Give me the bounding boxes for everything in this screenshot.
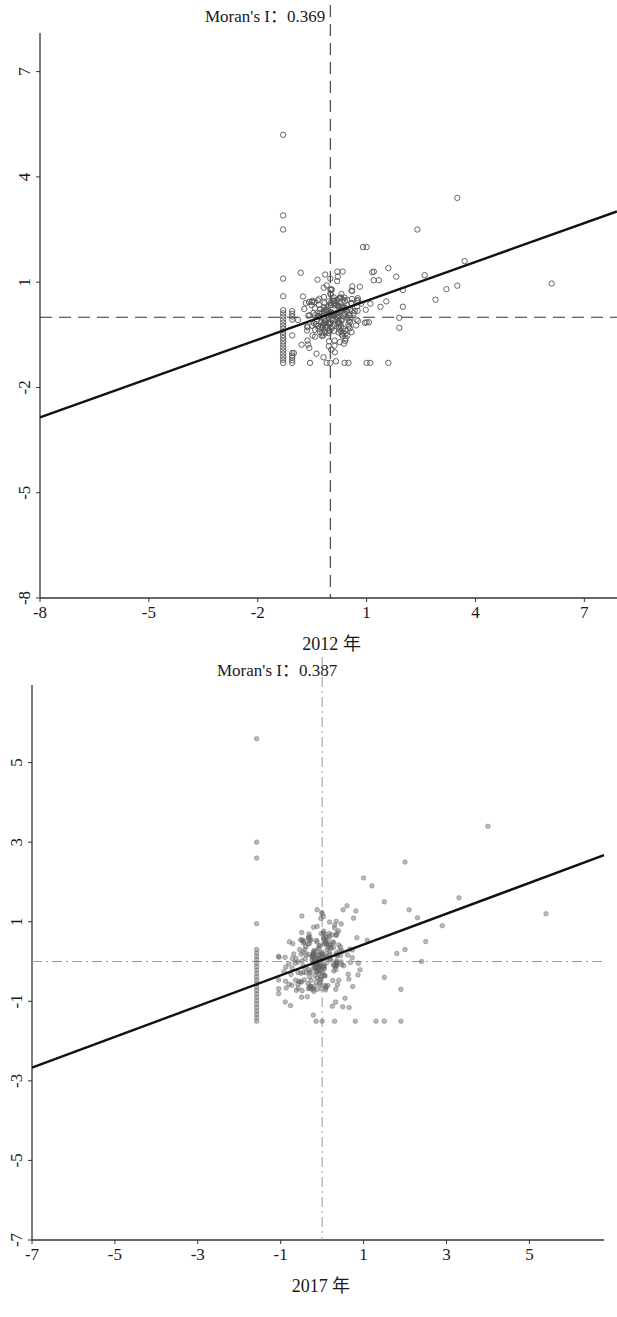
x-tick-label: -3 <box>191 1245 205 1264</box>
data-point <box>457 896 462 901</box>
y-tick-label: 1 <box>15 278 34 287</box>
y-tick-label: -3 <box>7 1074 26 1088</box>
data-point <box>348 960 353 965</box>
y-tick-label: 7 <box>15 67 34 76</box>
data-point <box>319 974 324 979</box>
data-point <box>399 987 404 992</box>
y-tick-label: 4 <box>15 172 34 181</box>
data-point <box>347 977 352 982</box>
data-point <box>334 919 339 924</box>
data-point <box>314 351 319 356</box>
data-point <box>415 915 420 920</box>
data-point <box>316 946 321 951</box>
data-point <box>397 325 402 330</box>
data-point <box>299 930 304 935</box>
data-point <box>462 258 467 263</box>
data-point <box>422 272 427 277</box>
data-point <box>354 317 359 322</box>
data-point <box>302 940 307 945</box>
x-tick-label: 7 <box>580 603 589 622</box>
data-points <box>254 736 548 1023</box>
data-point <box>321 294 326 299</box>
data-point <box>346 972 351 977</box>
data-point <box>363 307 368 312</box>
data-point <box>280 132 285 137</box>
x-tick-label: 1 <box>362 603 371 622</box>
data-point <box>314 938 319 943</box>
data-point <box>382 900 387 905</box>
y-tick-label: -5 <box>15 486 34 500</box>
data-point <box>355 935 360 940</box>
regression-line <box>40 211 617 417</box>
data-point <box>382 1019 387 1024</box>
data-point <box>335 982 340 987</box>
data-point <box>333 987 338 992</box>
data-point <box>394 951 399 956</box>
data-point <box>314 1019 319 1024</box>
data-point <box>407 907 412 912</box>
data-point <box>347 1005 352 1010</box>
data-point <box>303 957 308 962</box>
data-point <box>364 244 369 249</box>
data-point <box>337 943 342 948</box>
data-point <box>309 985 314 990</box>
data-point <box>314 987 319 992</box>
data-point <box>307 360 312 365</box>
data-point <box>315 924 320 929</box>
data-point <box>330 1004 335 1009</box>
x-tick-label: -1 <box>274 1245 288 1264</box>
data-point <box>300 914 305 919</box>
x-tick-label: 4 <box>471 603 480 622</box>
data-point <box>374 1019 379 1024</box>
data-point <box>330 978 335 983</box>
y-tick-label: 1 <box>7 917 26 926</box>
data-point <box>307 932 312 937</box>
data-point <box>386 265 391 270</box>
data-point <box>290 333 295 338</box>
data-point <box>319 986 324 991</box>
x-tick-label: 3 <box>442 1245 451 1264</box>
data-point <box>350 984 355 989</box>
data-point <box>276 954 281 959</box>
data-point <box>287 961 292 966</box>
data-point <box>323 983 328 988</box>
x-tick-label: -2 <box>251 603 265 622</box>
data-point <box>332 338 337 343</box>
data-point <box>354 909 359 914</box>
x-tick-label: -5 <box>142 603 156 622</box>
data-point <box>399 1019 404 1024</box>
data-point <box>334 933 339 938</box>
x-axis-label: 2017 年 <box>292 1276 351 1296</box>
y-tick-label: -7 <box>7 1232 26 1247</box>
data-point <box>350 955 355 960</box>
data-point <box>332 1019 337 1024</box>
data-point <box>384 299 389 304</box>
data-point <box>291 952 296 957</box>
y-tick-label: 5 <box>7 758 26 767</box>
data-point <box>294 956 299 961</box>
data-point <box>299 342 304 347</box>
data-point <box>302 978 307 983</box>
data-point <box>254 921 259 926</box>
data-point <box>423 939 428 944</box>
data-point <box>254 856 259 861</box>
x-tick-label: -5 <box>108 1245 122 1264</box>
data-point <box>301 970 306 975</box>
data-point <box>351 916 356 921</box>
y-tick-label: 3 <box>7 838 26 847</box>
data-point <box>276 978 281 983</box>
data-point <box>440 923 445 928</box>
data-point <box>320 1019 325 1024</box>
data-point <box>306 952 311 957</box>
data-point <box>317 981 322 986</box>
data-point <box>370 884 375 889</box>
x-axis-label: 2012 年 <box>302 634 361 654</box>
data-point <box>353 1019 358 1024</box>
data-point <box>303 300 308 305</box>
data-point <box>276 991 281 996</box>
data-point <box>307 345 312 350</box>
data-point <box>293 961 298 966</box>
data-point <box>305 994 310 999</box>
data-point <box>299 995 304 1000</box>
x-tick-label: -8 <box>33 603 47 622</box>
